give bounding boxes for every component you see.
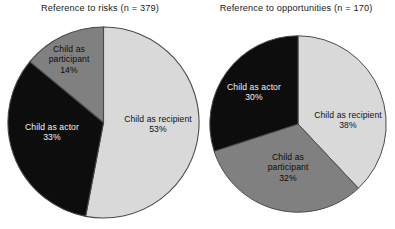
chart-panel-opportunities: Reference to opportunities (n = 170) [197, 0, 395, 229]
pie-risks-svg [6, 24, 201, 221]
pie-chart-figure: Reference to risks (n = 379) Child as re… [0, 0, 395, 229]
pie-opportunities-svg [208, 34, 388, 214]
chart-panel-risks: Reference to risks (n = 379) Child as re… [0, 0, 200, 229]
chart-title-risks: Reference to risks (n = 379) [0, 2, 200, 14]
chart-title-opportunities: Reference to opportunities (n = 170) [197, 2, 395, 14]
pie-risks [6, 24, 201, 221]
pie-opportunities [208, 34, 388, 214]
